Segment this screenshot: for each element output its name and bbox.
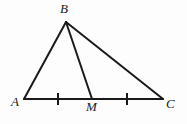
vertex-label-a: A xyxy=(11,95,19,108)
vertex-label-b: B xyxy=(60,2,68,15)
segment-AB xyxy=(24,22,66,99)
vertex-label-c: C xyxy=(166,97,175,110)
segment-BC xyxy=(66,22,163,99)
geometry-figure: A B M C xyxy=(0,0,187,124)
vertex-label-m: M xyxy=(86,100,97,113)
